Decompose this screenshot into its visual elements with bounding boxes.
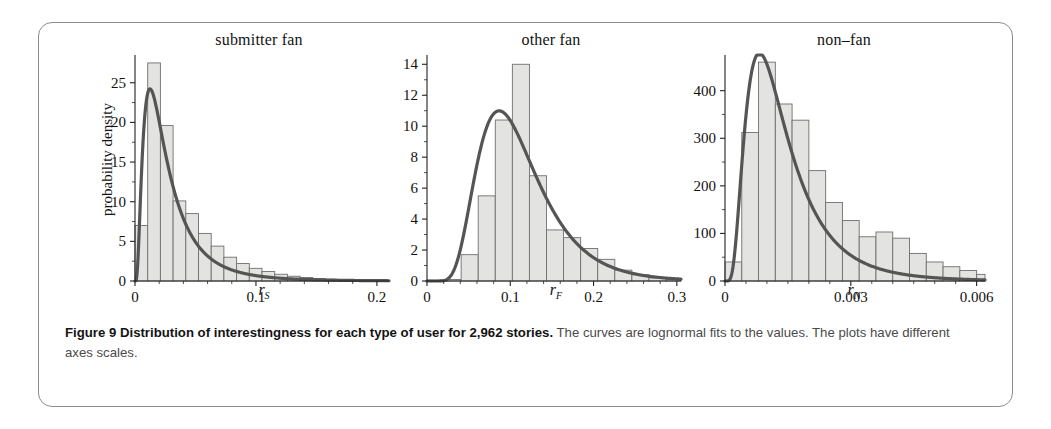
plots-row: submitter fan probability density 00.10.…: [39, 23, 1014, 313]
x-axis-variable: rN: [709, 281, 999, 301]
caption-title: Figure 9 Distribution of interestingness…: [65, 325, 553, 340]
histogram-bar: [775, 104, 792, 281]
y-tick-label: 100: [694, 225, 717, 241]
histogram-bar: [478, 196, 495, 281]
histogram-bars: [135, 63, 389, 281]
plot-title: non–fan: [679, 31, 1009, 49]
histogram-bar: [173, 201, 186, 281]
y-tick-label: 400: [694, 83, 717, 99]
y-tick-label: 300: [694, 130, 717, 146]
histogram-bar: [160, 126, 173, 281]
histogram-bar: [461, 255, 478, 281]
y-tick-label: 6: [411, 180, 419, 196]
y-tick-label: 12: [403, 87, 418, 103]
histogram-bar: [495, 120, 512, 281]
chart-canvas-1: 00.10.20.302468101214: [427, 49, 687, 281]
chart-svg: 00.10.20.302468101214: [387, 49, 691, 307]
y-tick-label: 15: [111, 154, 126, 170]
plot-submitter-fan: submitter fan probability density 00.10.…: [99, 23, 419, 313]
x-axis-variable: rF: [411, 281, 701, 301]
x-axis-variable-sub: F: [556, 290, 562, 301]
plot-title: submitter fan: [99, 31, 419, 49]
y-tick-label: 10: [403, 118, 418, 134]
histogram-bar: [876, 232, 893, 281]
histogram-bar: [759, 62, 776, 281]
plot-title: other fan: [391, 31, 711, 49]
histogram-bar: [792, 120, 809, 281]
y-tick-label: 2: [411, 242, 419, 258]
x-axis-variable-sub: N: [854, 290, 861, 301]
histogram-bars: [427, 64, 681, 281]
chart-svg: 00.0030.0060100200300400: [685, 49, 995, 307]
y-tick-label: 200: [694, 178, 717, 194]
y-tick-label: 25: [111, 75, 126, 91]
y-tick-label: 20: [111, 114, 126, 130]
figure-frame: submitter fan probability density 00.10.…: [38, 22, 1013, 407]
plot-non-fan: non–fan 00.0030.0060100200300400 rN: [679, 23, 1009, 313]
chart-canvas-2: 00.0030.0060100200300400: [725, 49, 991, 281]
plot-other-fan: other fan 00.10.20.302468101214 rF: [391, 23, 711, 313]
x-axis-variable: rS: [119, 281, 409, 301]
histogram-bars: [725, 62, 985, 281]
histogram-bar: [512, 64, 529, 281]
chart-svg: 00.10.20510152025: [95, 49, 399, 307]
histogram-bar: [186, 214, 199, 281]
chart-canvas-0: 00.10.20510152025: [135, 49, 395, 281]
y-tick-label: 14: [403, 56, 419, 72]
y-tick-label: 10: [111, 194, 126, 210]
y-tick-label: 5: [119, 233, 127, 249]
figure-caption: Figure 9 Distribution of interestingness…: [65, 323, 965, 364]
y-tick-label: 8: [411, 149, 419, 165]
y-tick-label: 4: [411, 211, 419, 227]
x-axis-variable-sub: S: [265, 290, 270, 301]
histogram-bar: [742, 133, 759, 281]
histogram-bar: [547, 230, 564, 281]
histogram-bar: [859, 237, 876, 281]
